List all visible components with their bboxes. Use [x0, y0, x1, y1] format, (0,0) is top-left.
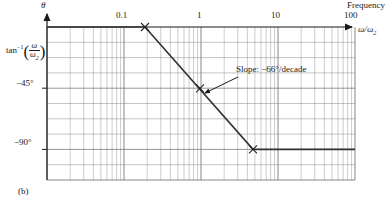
y-tick-label-minus90: −90°: [14, 137, 32, 147]
chart-axes: [42, 14, 352, 180]
x-tick-label-10: 10: [271, 10, 280, 20]
x-tick-label-1: 1: [197, 10, 202, 20]
panel-label: (b): [18, 186, 29, 196]
x-axis-label: ω/ω2: [358, 24, 376, 36]
bode-phase-chart: [0, 0, 391, 206]
figure-panel: θ Frequency ω/ω2 0.1 1 10 100 tan−1(ωω2)…: [0, 0, 391, 206]
slope-annotation-label: Slope: −66°/decade: [236, 64, 306, 74]
chart-gridlines: [47, 27, 355, 180]
slope-annotation-arrow: [205, 77, 238, 93]
frequency-caption: Frequency: [347, 0, 385, 10]
y-axis-symbol: θ: [41, 0, 45, 10]
y-axis-label: tan−1(ωω2): [6, 42, 45, 61]
x-tick-label-100: 100: [344, 10, 358, 20]
y-tick-label-minus45: −45°: [16, 78, 34, 88]
x-tick-label-0.1: 0.1: [116, 10, 127, 20]
